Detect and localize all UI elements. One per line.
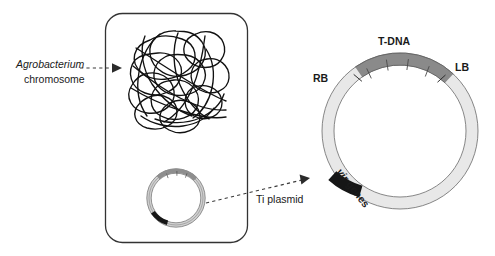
chromosome-label-line2: chromosome [24,73,85,85]
chromosome-label-line1: Agrobacterium [15,58,85,70]
lb-label: LB [455,61,469,73]
tdna-label: T-DNA [378,35,410,47]
rb-label: RB [313,72,329,84]
ti-plasmid-label: Ti plasmid [256,193,304,205]
agrobacterium-cell-outline [106,14,248,243]
agrobacterium-ti-plasmid-diagram: Agrobacterium chromosome Ti plasmid T-DN… [0,0,495,256]
figure-canvas: Agrobacterium chromosome Ti plasmid T-DN… [0,0,495,256]
